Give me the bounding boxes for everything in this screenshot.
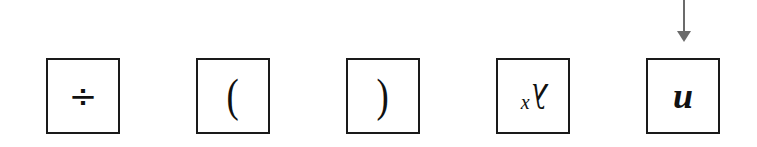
- lambda-group: x λ: [521, 78, 547, 114]
- symbol-box-left-paren[interactable]: (: [196, 58, 270, 134]
- symbol-box-right-paren[interactable]: ): [346, 58, 420, 134]
- symbol-box-division[interactable]: ÷: [46, 58, 120, 134]
- symbol-box-u-target[interactable]: u: [646, 58, 720, 134]
- u-symbol: u: [673, 78, 693, 114]
- arrow-shaft: [683, 0, 685, 32]
- division-symbol: ÷: [69, 79, 98, 113]
- arrow-down-icon: [677, 31, 691, 42]
- left-paren-symbol: (: [227, 73, 239, 119]
- x-variable: x: [521, 92, 530, 112]
- rotated-lambda-symbol: λ: [532, 78, 548, 114]
- symbol-box-rotated-lambda[interactable]: x λ: [496, 58, 570, 134]
- right-paren-symbol: ): [377, 73, 389, 119]
